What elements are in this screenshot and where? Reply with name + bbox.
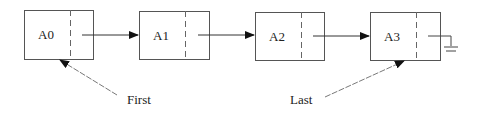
first-pointer-label: First [127, 93, 151, 106]
last-pointer-label: Last [290, 93, 312, 106]
first-pointer-arrow [60, 60, 117, 95]
node-label: A1 [153, 29, 169, 42]
node-label: A2 [269, 30, 285, 43]
node-label: A0 [38, 28, 54, 41]
last-pointer-arrow [325, 61, 404, 97]
null-ground-icon [428, 36, 458, 51]
linked-list-diagram: A0A1A2A3 First Last [0, 0, 480, 115]
diagram-canvas [0, 0, 480, 115]
node-label: A3 [384, 30, 400, 43]
